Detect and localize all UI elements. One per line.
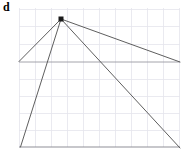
chart-panel: d: [0, 0, 190, 153]
grid-vertical: [20, 8, 180, 147]
ray-lower-left: [21, 19, 62, 147]
ray-lower-right: [61, 19, 180, 148]
plot-area: [0, 0, 190, 153]
ray-upper-right: [61, 19, 180, 62]
apex-marker: [59, 17, 64, 22]
